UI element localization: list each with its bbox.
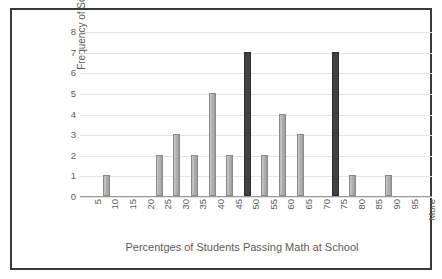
bar	[173, 134, 180, 196]
y-tick-label: 4	[52, 110, 76, 120]
bar	[191, 155, 198, 196]
x-tick-label: 55	[269, 199, 279, 227]
bar	[156, 155, 163, 196]
x-tick-label: 25	[163, 199, 173, 227]
x-tick-label: 15	[128, 199, 138, 227]
bar	[385, 175, 392, 196]
x-tick-label: 30	[181, 199, 191, 227]
y-axis-tick-labels: 012345678	[52, 32, 76, 197]
gridline	[80, 197, 432, 198]
bars-layer	[80, 32, 432, 197]
y-tick-label: 0	[52, 192, 76, 202]
bar	[261, 155, 268, 196]
bar	[279, 114, 286, 197]
y-tick-label: 2	[52, 151, 76, 161]
x-tick-label: 65	[304, 199, 314, 227]
y-tick-label: 5	[52, 89, 76, 99]
y-tick-label: 3	[52, 130, 76, 140]
x-tick-label: 5	[93, 199, 103, 227]
x-tick-label: 95	[410, 199, 420, 227]
y-tick-label: 6	[52, 68, 76, 78]
x-axis-title: Percentges of Students Passing Math at S…	[52, 241, 432, 253]
bar	[209, 93, 216, 196]
chart-screenshot: Frequency of Schools 012345678 510152025…	[0, 0, 442, 279]
bar	[332, 52, 339, 196]
x-tick-label: 80	[357, 199, 367, 227]
x-tick-label: 90	[392, 199, 402, 227]
y-tick-label: 8	[52, 27, 76, 37]
plot-area	[80, 32, 432, 197]
x-tick-label: 40	[216, 199, 226, 227]
bar	[297, 134, 304, 196]
x-tick-label: 10	[110, 199, 120, 227]
y-tick-label: 7	[52, 48, 76, 58]
x-tick-label: 75	[339, 199, 349, 227]
x-tick-label: 85	[374, 199, 384, 227]
x-tick-label: 50	[251, 199, 261, 227]
bar	[103, 175, 110, 196]
x-tick-label: 35	[198, 199, 208, 227]
y-axis-title: Frequency of Schools	[34, 0, 48, 46]
x-tick-label: More	[427, 199, 437, 239]
figure-frame: Frequency of Schools 012345678 510152025…	[10, 8, 432, 270]
bar	[226, 155, 233, 196]
x-tick-label: 45	[234, 199, 244, 227]
bar	[349, 175, 356, 196]
x-tick-label: 60	[286, 199, 296, 227]
x-tick-label: 20	[146, 199, 156, 227]
y-tick-label: 1	[52, 171, 76, 181]
bar	[244, 52, 251, 196]
x-tick-label: 70	[322, 199, 332, 227]
x-axis-tick-labels: 5101520253035404550556065707580859095Mor…	[80, 199, 432, 239]
